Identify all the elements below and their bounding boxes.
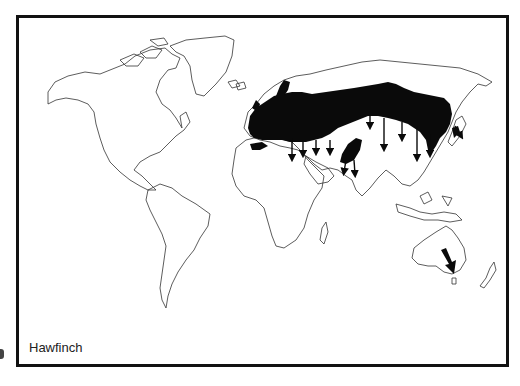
madagascar-outline	[320, 222, 328, 244]
arrow-india-2	[354, 160, 355, 174]
south-america-outline	[146, 184, 210, 308]
north-america-outline	[48, 48, 190, 190]
range-himalaya	[340, 138, 362, 164]
greenland-outline	[170, 36, 234, 96]
australia-arrow	[441, 248, 456, 274]
new-zealand-outline	[480, 262, 496, 288]
arrow-australia-1	[441, 248, 456, 274]
australia-outline	[412, 226, 466, 274]
world-map	[0, 0, 520, 386]
range-north-africa	[250, 142, 268, 150]
map-title: Hawfinch	[29, 340, 82, 355]
tasmania-outline	[452, 278, 456, 284]
africa-outline	[232, 136, 324, 248]
edge-mark	[0, 349, 4, 359]
breeding-range	[248, 80, 460, 164]
iceland-outline	[228, 80, 240, 88]
arctic-islands-outline	[120, 38, 246, 90]
indonesia-outline	[396, 192, 462, 222]
